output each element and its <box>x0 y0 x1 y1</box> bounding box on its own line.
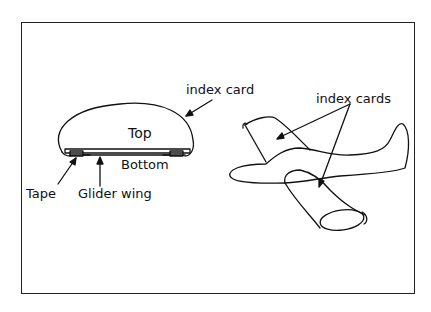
label-index-card: index card <box>186 83 254 96</box>
diagram-drawing <box>0 0 431 312</box>
glider-drawing <box>230 117 409 233</box>
label-tape: Tape <box>26 187 56 200</box>
label-bottom: Bottom <box>121 158 169 171</box>
wing-cross-section <box>59 103 194 156</box>
label-index-cards: index cards <box>316 92 391 105</box>
label-top: Top <box>128 126 152 140</box>
label-glider-wing: Glider wing <box>78 187 152 200</box>
arrows-right <box>277 104 350 187</box>
